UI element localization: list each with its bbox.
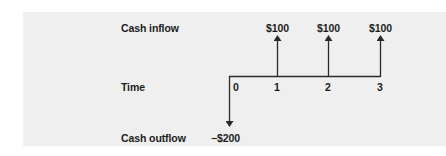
period-label-1: 1 [274, 81, 280, 93]
inflow-value-period-3: $100 [369, 22, 392, 34]
inflow-value-period-2: $100 [317, 22, 340, 34]
period-label-0: 0 [233, 81, 239, 93]
period-label-2: 2 [325, 81, 331, 93]
outflow-value-period-0: −$200 [211, 132, 240, 144]
period-label-3: 3 [377, 81, 383, 93]
inflow-value-period-1: $100 [266, 22, 289, 34]
